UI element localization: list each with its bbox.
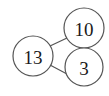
- bond-label-part-top: 10: [75, 19, 94, 40]
- bond-node-part-bottom[interactable]: 3: [65, 48, 103, 86]
- number-bond-diagram: 13 10 3: [0, 0, 109, 96]
- bond-node-part-top[interactable]: 10: [64, 8, 104, 48]
- bond-node-whole[interactable]: 13: [13, 36, 53, 76]
- bond-label-part-bottom: 3: [79, 58, 89, 79]
- bond-label-whole: 13: [24, 47, 43, 68]
- number-bond-canvas: 13 10 3: [0, 0, 109, 96]
- bond-link-whole-to-part-top: [50, 38, 67, 46]
